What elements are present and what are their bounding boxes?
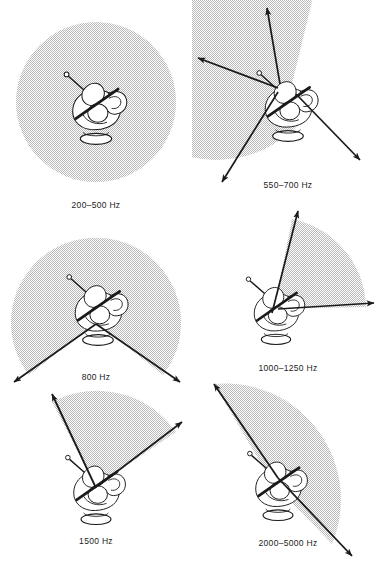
panel-800: 800 Hz — [0, 212, 192, 402]
panel-label-200-500: 200–500 Hz — [0, 200, 192, 210]
panel-200-500: 200–500 Hz — [0, 2, 192, 192]
panel-1500: 1500 Hz — [0, 380, 192, 569]
panel-1000-1250: 1000–1250 Hz — [192, 205, 384, 395]
panel-label-1500: 1500 Hz — [0, 536, 192, 546]
panel-label-1000-1250: 1000–1250 Hz — [192, 363, 384, 373]
panel-200-500-graphic — [0, 2, 192, 192]
panel-label-550-700: 550–700 Hz — [192, 180, 384, 190]
panel-2000-5000: 2000–5000 Hz — [192, 378, 384, 568]
radiation-pattern-figure: 200–500 Hz 550–700 Hz — [0, 0, 385, 569]
radiation-lobe — [274, 219, 366, 309]
panel-550-700: 550–700 Hz — [192, 0, 384, 190]
panel-label-2000-5000: 2000–5000 Hz — [192, 538, 384, 548]
radiation-lobe — [52, 391, 176, 486]
panel-550-700-graphic — [192, 0, 384, 190]
